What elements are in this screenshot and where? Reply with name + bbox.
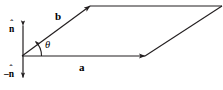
parallelogram-outline: [90, 6, 222, 56]
n-hat-down-glyph: ˆ –n: [4, 70, 14, 80]
hat-accent-up-icon: ˆ: [10, 19, 13, 28]
vector-cross-product-figure: b a θ ˆ n ˆ –n: [0, 0, 223, 90]
n-hat-up-glyph: ˆ n: [9, 25, 14, 35]
vector-diagram-canvas: [0, 0, 223, 90]
vector-a-label: a: [79, 62, 85, 73]
vector-b-label: b: [55, 11, 61, 22]
hat-accent-down-icon: ˆ: [10, 64, 13, 73]
angle-theta-label: θ: [45, 40, 50, 51]
parallelogram-right-edge: [145, 6, 222, 56]
unit-normal-up-label: ˆ n: [9, 25, 14, 35]
unit-normal-down-label: ˆ –n: [4, 70, 14, 80]
